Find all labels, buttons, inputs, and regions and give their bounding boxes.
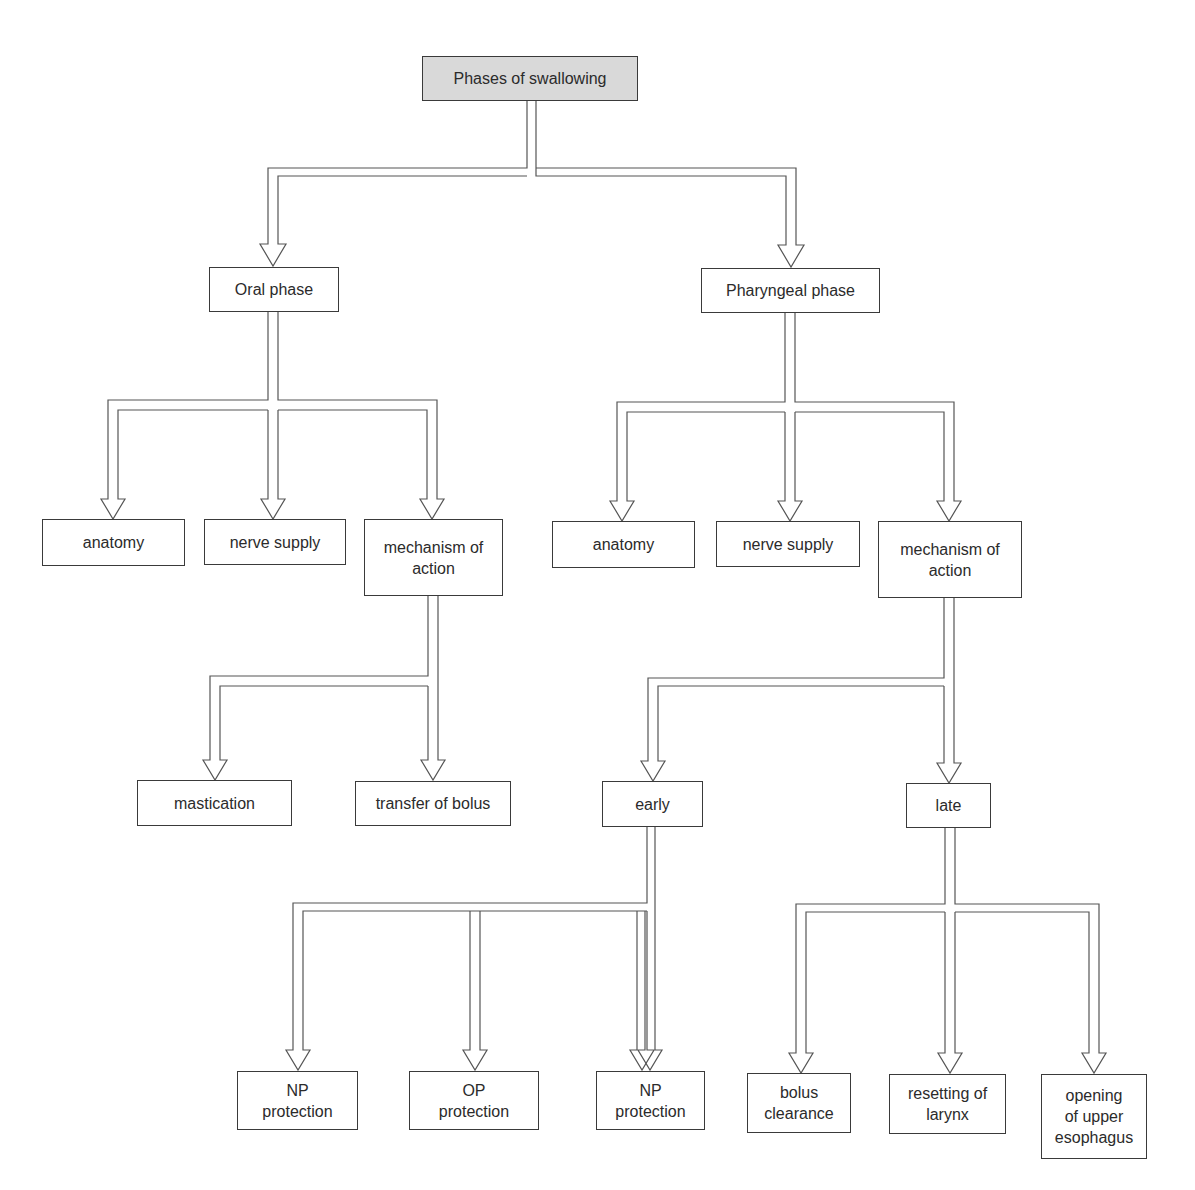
node-pharyngeal-nerve-supply: nerve supply (716, 521, 860, 567)
node-label: transfer of bolus (376, 793, 491, 814)
node-label: mechanism of action (384, 537, 484, 579)
arrow-early-to-np1 (286, 826, 647, 1070)
node-label: Oral phase (235, 279, 313, 300)
arrow-pharyngeal-mechanism-to-early (641, 598, 944, 781)
node-label: late (936, 795, 962, 816)
node-label: nerve supply (743, 534, 834, 555)
node-label: resetting of larynx (908, 1083, 987, 1125)
node-oral-mechanism-of-action: mechanism of action (364, 519, 503, 596)
node-early-np-protection-1: NP protection (237, 1071, 358, 1130)
node-oral-phase: Oral phase (209, 267, 339, 312)
arrow-oral-to-mechanism (278, 311, 444, 519)
node-label: anatomy (83, 532, 144, 553)
swallowing-phases-diagram: Phases of swallowing Oral phase Pharynge… (0, 0, 1195, 1190)
node-late-bolus-clearance: bolus clearance (747, 1073, 851, 1133)
node-label: nerve supply (230, 532, 321, 553)
node-pharyngeal-phase: Pharyngeal phase (701, 268, 880, 313)
node-pharyngeal-mechanism-of-action: mechanism of action (878, 521, 1022, 598)
node-label: early (635, 794, 670, 815)
arrow-late-to-opening (955, 828, 1106, 1073)
node-transfer-of-bolus: transfer of bolus (355, 781, 511, 826)
arrow-oral-mechanism-to-transfer (421, 596, 445, 780)
node-late: late (906, 783, 991, 828)
arrow-pharyngeal-to-mechanism (795, 312, 961, 521)
node-pharyngeal-anatomy: anatomy (552, 521, 695, 568)
node-label: Pharyngeal phase (726, 280, 855, 301)
arrow-oral-to-nerve (261, 410, 285, 519)
node-phases-of-swallowing: Phases of swallowing (422, 56, 638, 101)
node-early-np-protection-2: NP protection (596, 1071, 705, 1130)
node-oral-nerve-supply: nerve supply (204, 519, 346, 565)
arrow-root-to-pharyngeal (536, 100, 804, 267)
arrow-oral-mechanism-to-mastication (203, 596, 428, 780)
arrow-pharyngeal-to-anatomy (610, 312, 785, 521)
arrow-early-to-op-branch (463, 911, 487, 1070)
arrow-pharyngeal-to-nerve (778, 412, 802, 521)
node-label: anatomy (593, 534, 654, 555)
arrow-late-to-resetting (938, 912, 962, 1073)
arrow-late-to-bolus (789, 828, 945, 1073)
node-label: opening of upper esophagus (1055, 1085, 1133, 1148)
node-mastication: mastication (137, 780, 292, 826)
node-oral-anatomy: anatomy (42, 519, 185, 566)
arrow-pharyngeal-mechanism-to-late (937, 598, 961, 783)
node-label: mechanism of action (900, 539, 1000, 581)
arrow-early-to-op (630, 911, 654, 1070)
node-label: OP protection (439, 1080, 509, 1122)
node-label: NP protection (615, 1080, 685, 1122)
arrow-early-to-np2 (638, 826, 662, 1070)
arrow-root-to-oral (260, 100, 527, 266)
arrow-oral-to-anatomy (101, 311, 268, 519)
node-late-resetting-of-larynx: resetting of larynx (889, 1074, 1006, 1134)
node-early-op-protection: OP protection (409, 1071, 539, 1130)
node-label: Phases of swallowing (454, 68, 607, 89)
node-early: early (602, 781, 703, 827)
node-label: mastication (174, 793, 255, 814)
node-label: bolus clearance (764, 1082, 833, 1124)
node-late-opening-of-upper-esophagus: opening of upper esophagus (1041, 1074, 1147, 1159)
node-label: NP protection (262, 1080, 332, 1122)
